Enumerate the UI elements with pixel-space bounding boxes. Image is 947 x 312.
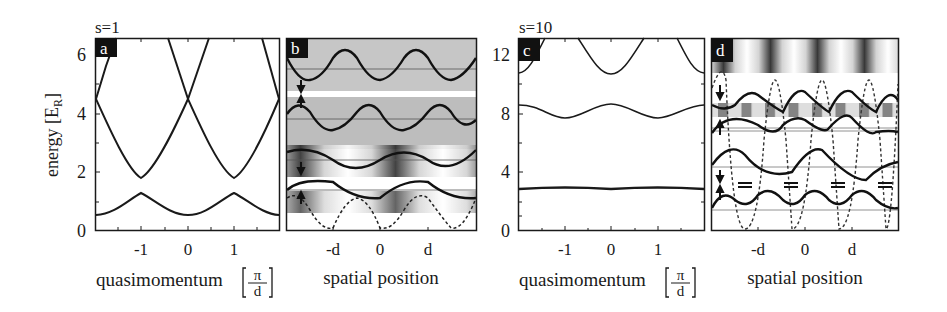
panel-label: b	[291, 39, 300, 58]
x-axis-label: quasimomentum	[519, 269, 646, 290]
ytick-label: 8	[501, 104, 510, 124]
panel-header-s1: s=1	[95, 18, 120, 37]
panel-header-s10: s=10	[519, 18, 552, 37]
x-axis-label: quasimomentum	[96, 269, 223, 290]
panel-b: b -d 0 d spatial position	[286, 38, 477, 288]
ytick-label: 12	[492, 45, 510, 65]
ytick-label: 0	[77, 221, 86, 241]
xtick-label: d	[848, 240, 857, 259]
figure: s=1 energy [ER] 0 2 4 6	[0, 0, 947, 312]
arrow-down-icon	[717, 93, 723, 99]
axes-frame	[519, 39, 705, 231]
xtick-label: 0	[184, 240, 193, 259]
ytick-label: 4	[501, 162, 510, 182]
panel-label: c	[523, 41, 531, 60]
level-dashes	[738, 183, 892, 187]
svg-text:d: d	[677, 283, 685, 299]
y-axis-label: energy [ER]	[42, 93, 65, 177]
arrow-up-icon	[717, 186, 723, 192]
xtick-label: 1	[654, 240, 663, 259]
xtick-label: 0	[801, 240, 810, 259]
ytick-label: 0	[501, 221, 510, 241]
panel-label: a	[100, 39, 108, 58]
ytick-label: 4	[77, 104, 86, 124]
svg-text:π: π	[677, 267, 685, 283]
svg-text:π: π	[254, 267, 262, 283]
panel-label: d	[716, 41, 725, 60]
svg-text:d: d	[254, 283, 262, 299]
x-unit-fraction: π d	[666, 267, 695, 299]
ytick-label: 6	[77, 45, 86, 65]
band-curves	[519, 38, 704, 189]
band-curves	[96, 38, 279, 215]
axes-frame	[96, 39, 280, 231]
panel-d: d -d 0 d spatial position	[711, 38, 899, 288]
xtick-label: 0	[607, 240, 616, 259]
ytick-label: 2	[77, 162, 86, 182]
xtick-label: -d	[326, 240, 341, 259]
x-unit-fraction: π d	[243, 267, 272, 299]
xtick-label: -1	[558, 240, 572, 259]
xtick-label: 1	[230, 240, 239, 259]
transition-arrows	[717, 85, 723, 200]
panel-a: s=1 energy [ER] 0 2 4 6	[42, 18, 280, 299]
xtick-label: 0	[376, 240, 385, 259]
xtick-label: -d	[751, 240, 766, 259]
x-axis-label: spatial position	[747, 267, 863, 288]
panel-c: s=10 0 4 8 12 c -1 0 1 quasimomentum	[492, 18, 705, 299]
svg-text:energy [ER]: energy [ER]	[42, 93, 65, 177]
xtick-label: -1	[134, 240, 148, 259]
x-axis-label: spatial position	[323, 267, 439, 288]
xtick-label: d	[424, 240, 433, 259]
arrow-down-icon	[717, 176, 723, 182]
